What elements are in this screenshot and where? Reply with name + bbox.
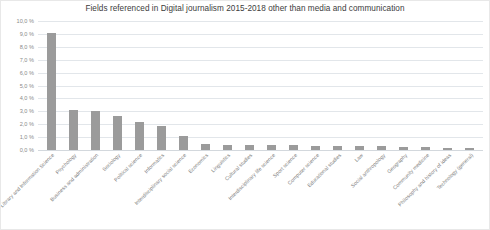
y-axis-tick-label: 3,0 % xyxy=(0,108,34,114)
y-axis-tick-labels: 10,0 %9,0 %8,0 %7,0 %6,0 %5,0 %4,0 %3,0 … xyxy=(0,21,36,150)
bar[interactable] xyxy=(201,144,210,150)
bar-slot xyxy=(194,21,216,150)
bars-group xyxy=(38,21,483,150)
gridline xyxy=(38,150,483,151)
bar[interactable] xyxy=(157,126,166,150)
y-axis-tick-label: 9,0 % xyxy=(0,31,34,37)
bar[interactable] xyxy=(399,147,408,150)
bar-slot xyxy=(62,21,84,150)
bar-slot xyxy=(459,21,481,150)
bar-slot xyxy=(128,21,150,150)
bar-slot xyxy=(172,21,194,150)
x-axis-tick-label: Law xyxy=(353,152,364,163)
y-axis-tick-label: 5,0 % xyxy=(0,83,34,89)
x-axis-tick-label: Sociology xyxy=(101,152,121,172)
bar[interactable] xyxy=(245,145,254,150)
bar[interactable] xyxy=(377,146,386,150)
bar-slot xyxy=(305,21,327,150)
y-axis-tick-label: 1,0 % xyxy=(0,134,34,140)
y-axis-tick-label: 7,0 % xyxy=(0,57,34,63)
x-axis-tick-label: Linguistics xyxy=(210,152,232,174)
bar-slot xyxy=(371,21,393,150)
bar-slot xyxy=(216,21,238,150)
chart-title: Fields referenced in Digital journalism … xyxy=(0,4,490,13)
y-axis-tick-label: 4,0 % xyxy=(0,95,34,101)
bar-slot xyxy=(238,21,260,150)
bar[interactable] xyxy=(47,33,56,150)
bar-slot xyxy=(283,21,305,150)
bar[interactable] xyxy=(267,145,276,150)
bar[interactable] xyxy=(91,111,100,150)
bar[interactable] xyxy=(311,146,320,150)
bar[interactable] xyxy=(421,147,430,150)
y-axis-tick-label: 0,0 % xyxy=(0,147,34,153)
bar-chart: Fields referenced in Digital journalism … xyxy=(0,0,490,230)
bar-slot xyxy=(260,21,282,150)
x-axis-tick-label: Economics xyxy=(187,152,209,174)
x-axis-category-labels: Library and Information SciencePsycholog… xyxy=(38,152,483,228)
bar[interactable] xyxy=(333,146,342,150)
bar-slot xyxy=(84,21,106,150)
bar[interactable] xyxy=(223,145,232,150)
bar[interactable] xyxy=(355,146,364,150)
bar[interactable] xyxy=(465,148,474,150)
y-axis-tick-label: 2,0 % xyxy=(0,121,34,127)
bar-slot xyxy=(40,21,62,150)
y-axis-tick-label: 6,0 % xyxy=(0,70,34,76)
bar[interactable] xyxy=(179,136,188,150)
bar[interactable] xyxy=(289,145,298,150)
bar-slot xyxy=(150,21,172,150)
y-axis-tick-label: 10,0 % xyxy=(0,18,34,24)
bar-slot xyxy=(106,21,128,150)
plot-area xyxy=(38,21,483,150)
bar-slot xyxy=(437,21,459,150)
bar-slot xyxy=(415,21,437,150)
bar[interactable] xyxy=(69,110,78,150)
bar-slot xyxy=(393,21,415,150)
bar[interactable] xyxy=(443,148,452,150)
x-axis-tick-label: Library and Information Science xyxy=(0,152,55,208)
bar[interactable] xyxy=(135,122,144,150)
x-axis-tick-label: Geography xyxy=(386,152,409,175)
x-axis-tick-label: Business and administration xyxy=(49,152,100,203)
y-axis-tick-label: 8,0 % xyxy=(0,44,34,50)
bar-slot xyxy=(327,21,349,150)
bar-slot xyxy=(349,21,371,150)
bar[interactable] xyxy=(113,116,122,150)
x-axis-tick-label: Interdisciplinary life science xyxy=(226,152,275,201)
